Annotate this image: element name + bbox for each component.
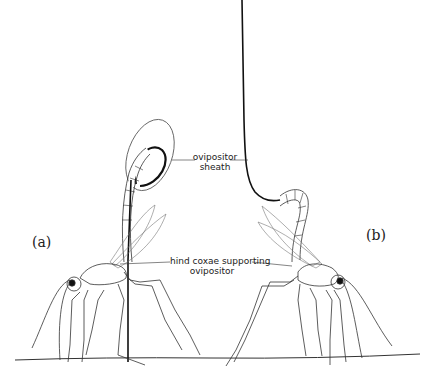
ground-line bbox=[15, 354, 420, 360]
panel-label-b: (b) bbox=[366, 227, 386, 243]
ovipositor-sheath-label: ovipositor sheath bbox=[192, 152, 238, 172]
wing-a2 bbox=[112, 214, 166, 268]
wasp-b bbox=[226, 0, 392, 366]
ovipositor-sheath-label-line2: sheath bbox=[192, 162, 238, 172]
antenna-b1 bbox=[342, 278, 392, 346]
wasp-oviposition-figure: (a) (b) ovipositor sheath hind coxae sup… bbox=[0, 0, 426, 384]
hind-coxae-label-line2: ovipositor bbox=[170, 266, 254, 276]
wasp-drawing bbox=[0, 0, 426, 384]
wing-a1 bbox=[110, 205, 155, 266]
hind-coxae-label: hind coxae supporting ovipositor bbox=[170, 256, 254, 276]
thorax-a bbox=[80, 264, 126, 285]
wasp-a bbox=[32, 113, 200, 365]
panel-label-a: (a) bbox=[32, 234, 51, 250]
thorax-b bbox=[298, 264, 338, 286]
antenna-b2 bbox=[342, 281, 362, 358]
hind-coxae-label-line1: hind coxae supporting bbox=[170, 256, 254, 266]
wing-b1 bbox=[262, 206, 320, 266]
ovipositor-b bbox=[242, 0, 280, 201]
ovipositor-sheath-label-line1: ovipositor bbox=[192, 152, 238, 162]
antenna-a1 bbox=[32, 280, 70, 348]
antenna-a2 bbox=[59, 283, 70, 360]
